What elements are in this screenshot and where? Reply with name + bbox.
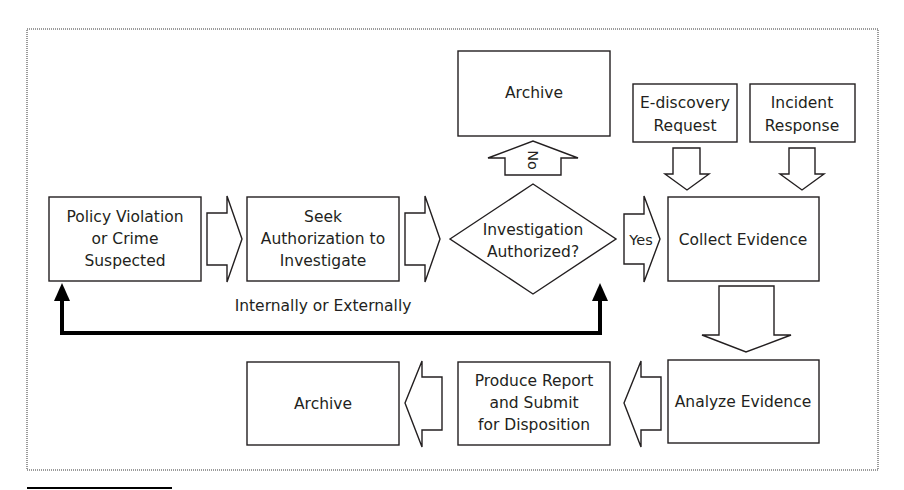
edge-label-loop: Internally or Externally [235, 297, 412, 315]
edge-feedback-loop: Internally or Externally [54, 283, 608, 333]
arrow-left-icon [624, 361, 661, 447]
node-label-line: Investigation [483, 221, 584, 239]
node-seek-authorization: Seek Authorization to Investigate [247, 197, 399, 281]
node-label-line: Investigate [280, 252, 367, 270]
arrowhead-up-icon [54, 283, 70, 301]
node-label-line: E-discovery [640, 94, 730, 112]
node-label-line: Produce Report [475, 372, 594, 390]
node-label-line: Authorized? [487, 243, 579, 261]
edge-yes: Yes [624, 196, 660, 282]
node-archive-top: Archive [458, 51, 610, 136]
node-label-line: and Submit [489, 394, 578, 412]
node-archive-bottom: Archive [247, 362, 399, 445]
edge-no: No [488, 141, 578, 175]
node-label-line: Analyze Evidence [675, 393, 812, 411]
node-label-line: Suspected [84, 252, 165, 270]
flowchart-diagram: Policy Violation or Crime Suspected Seek… [0, 0, 904, 490]
node-label-line: Request [654, 117, 717, 135]
node-label-line: Response [765, 117, 839, 135]
node-label-line: Archive [294, 395, 352, 413]
arrow-right-icon [405, 196, 440, 282]
node-label-line: Policy Violation [66, 208, 183, 226]
node-label-line: or Crime [92, 230, 159, 248]
edge-label-no: No [525, 150, 541, 170]
arrow-right-icon [207, 196, 242, 282]
node-label-line: Incident [771, 94, 834, 112]
arrow-left-icon [405, 361, 442, 447]
node-produce-report: Produce Report and Submit for Dispositio… [458, 362, 610, 445]
node-label-line: Archive [505, 84, 563, 102]
node-analyze-evidence: Analyze Evidence [668, 360, 819, 443]
node-label-line: Seek [304, 208, 342, 226]
arrow-down-icon [665, 148, 709, 190]
edge-label-yes: Yes [628, 232, 652, 248]
node-label-line: Collect Evidence [679, 231, 808, 249]
node-incident-response: Incident Response [750, 84, 855, 142]
arrow-down-icon [702, 286, 791, 352]
node-label-line: for Disposition [478, 416, 590, 434]
node-label-line: Authorization to [261, 230, 385, 248]
node-ediscovery-request: E-discovery Request [633, 84, 737, 142]
arrow-down-icon [780, 148, 824, 190]
arrowhead-up-icon [592, 283, 608, 301]
node-decision-diamond: Investigation Authorized? [450, 184, 616, 294]
node-collect-evidence: Collect Evidence [668, 197, 819, 281]
node-policy-violation: Policy Violation or Crime Suspected [49, 197, 201, 281]
